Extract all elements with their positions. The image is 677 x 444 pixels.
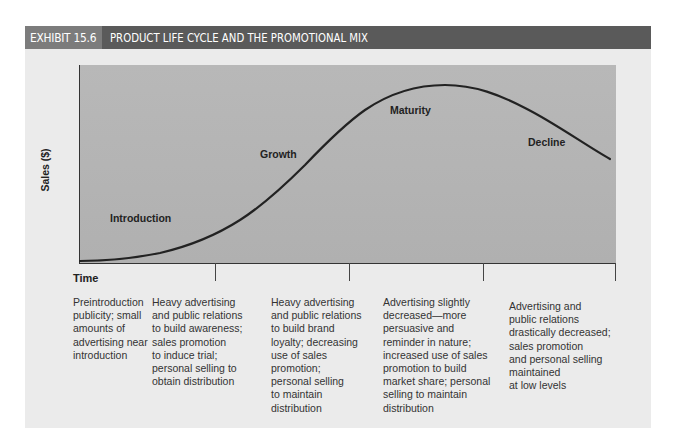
description-introduction: Heavy advertising and public relations t… xyxy=(152,296,242,388)
stage-label-introduction: Introduction xyxy=(110,212,171,224)
stage-label-maturity: Maturity xyxy=(390,104,431,116)
stage-label-growth: Growth xyxy=(260,148,297,160)
description-preintroduction: Preintroduction publicity; small amounts… xyxy=(73,296,148,362)
description-maturity: Advertising slightly decreased—more pers… xyxy=(383,296,490,415)
x-axis-label: Time xyxy=(73,272,98,284)
description-decline: Advertising and public relations drastic… xyxy=(509,300,611,392)
y-axis-label: Sales ($) xyxy=(39,140,51,200)
plot-area xyxy=(79,65,616,263)
stage-label-decline: Decline xyxy=(528,136,565,148)
description-growth: Heavy advertising and public relations t… xyxy=(271,296,361,415)
